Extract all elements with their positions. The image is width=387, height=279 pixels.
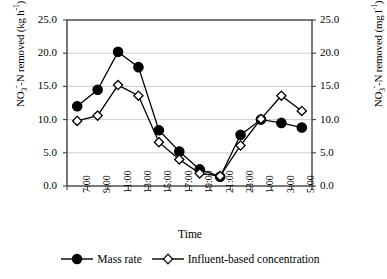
y-axis-right-tick-label: 5.0 (320, 147, 360, 158)
y-axis-left-tick-label: 25.0 (17, 14, 57, 25)
y-axis-right-tick-label: 20.0 (320, 47, 360, 58)
legend-item-influent-based-concentration: Influent-based concentration (151, 252, 320, 266)
x-axis-tick-label: 21:00 (225, 170, 235, 193)
y-axis-right-tick-label: 10.0 (320, 114, 360, 125)
x-axis-tick-label: 3:00 (286, 175, 296, 193)
x-axis-tick-label: 13:00 (143, 170, 153, 193)
x-axis-tick-label: 7:00 (82, 175, 92, 193)
y-axis-left-tick-label: 0.0 (17, 180, 57, 191)
x-axis-tick-label: 17:00 (184, 170, 194, 193)
x-axis-tick-label: 19:00 (204, 170, 214, 193)
legend-item-mass-rate: Mass rate (60, 252, 141, 266)
legend-marker-open-diamond-icon (151, 252, 185, 266)
x-axis-tick-label: 23:00 (245, 170, 255, 193)
x-axis-title: Time (0, 228, 380, 240)
legend-label-mass-rate: Mass rate (97, 253, 141, 265)
x-axis-tick-label: 1:00 (265, 175, 275, 193)
x-axis-tick-label: 11:00 (123, 171, 133, 193)
y-axis-left-tick-label: 5.0 (17, 147, 57, 158)
x-axis-tick-label: 9:00 (102, 175, 112, 193)
x-axis-tick-label: 15:00 (163, 170, 173, 193)
y-axis-left-tick-label: 10.0 (17, 114, 57, 125)
chart-legend: Mass rate Influent-based concentration (0, 252, 380, 266)
y-axis-left-tick-label: 15.0 (17, 80, 57, 91)
legend-label-influent-based-concentration: Influent-based concentration (188, 253, 320, 265)
y-axis-right-tick-label: 25.0 (320, 14, 360, 25)
y-axis-right-tick-label: 0.0 (320, 180, 360, 191)
legend-marker-filled-circle-icon (60, 252, 94, 266)
y-axis-right-tick-label: 15.0 (320, 80, 360, 91)
x-axis-tick-label: 5:00 (306, 175, 316, 193)
y-axis-left-tick-label: 20.0 (17, 47, 57, 58)
